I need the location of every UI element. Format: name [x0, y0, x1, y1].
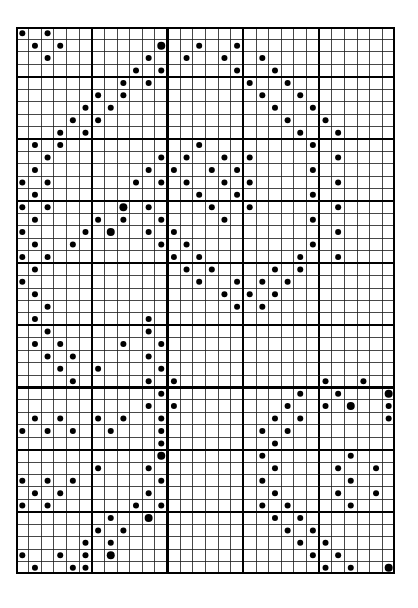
data-dot [184, 242, 190, 248]
data-dot [335, 391, 341, 397]
data-dot [57, 142, 63, 148]
data-dot [108, 428, 114, 434]
data-dot [272, 416, 278, 422]
data-dot [108, 540, 114, 546]
data-dot [184, 266, 190, 272]
data-dot [285, 527, 291, 533]
data-dot [196, 192, 202, 198]
data-dot [82, 565, 88, 571]
data-dot [234, 304, 240, 310]
data-dot [285, 503, 291, 509]
data-dot [32, 565, 38, 571]
data-dot [32, 416, 38, 422]
data-dot [19, 428, 25, 434]
data-dot [171, 229, 177, 235]
data-dot [19, 204, 25, 210]
data-dot [32, 490, 38, 496]
data-dot [133, 503, 139, 509]
data-dot [234, 192, 240, 198]
data-dot [120, 80, 126, 86]
data-dot [146, 80, 152, 86]
data-dot [323, 378, 329, 384]
data-dot [158, 242, 164, 248]
data-dot [323, 117, 329, 123]
data-dot [234, 167, 240, 173]
data-dot [285, 117, 291, 123]
data-dot [158, 478, 164, 484]
data-dot [310, 192, 316, 198]
data-dot [221, 217, 227, 223]
data-dot [95, 465, 101, 471]
data-dot [196, 142, 202, 148]
data-dot [272, 515, 278, 521]
data-dot [32, 242, 38, 248]
data-dot [145, 514, 153, 522]
data-dot [171, 403, 177, 409]
data-dot [45, 155, 51, 161]
data-dot [45, 304, 51, 310]
data-dot [19, 254, 25, 260]
data-dot [82, 105, 88, 111]
data-dot [348, 503, 354, 509]
data-dot [158, 217, 164, 223]
data-dot [272, 68, 278, 74]
data-dot [335, 465, 341, 471]
data-dot [209, 167, 215, 173]
data-dot [45, 30, 51, 36]
grid-canvas [16, 27, 395, 574]
data-dot [57, 43, 63, 49]
chart-sheet [0, 0, 418, 608]
data-dot [310, 552, 316, 558]
data-dot [45, 329, 51, 335]
data-dot [19, 229, 25, 235]
data-dot [259, 55, 265, 61]
data-dot [310, 527, 316, 533]
data-dot [297, 515, 303, 521]
data-dot [386, 416, 392, 422]
data-dot [158, 416, 164, 422]
data-dot [45, 353, 51, 359]
data-dot [108, 515, 114, 521]
data-dot [171, 254, 177, 260]
data-dot [146, 378, 152, 384]
data-dot [32, 192, 38, 198]
data-dot [82, 229, 88, 235]
data-dot [297, 130, 303, 136]
data-dot [57, 366, 63, 372]
data-dot [120, 217, 126, 223]
data-dot [234, 43, 240, 49]
data-dot [335, 204, 341, 210]
data-dot [335, 155, 341, 161]
data-dot [146, 403, 152, 409]
data-dot [347, 402, 355, 410]
data-dot [95, 366, 101, 372]
data-dot [323, 403, 329, 409]
data-dot [45, 254, 51, 260]
data-dot [285, 279, 291, 285]
data-dot [297, 416, 303, 422]
data-dot [158, 341, 164, 347]
data-dot [297, 540, 303, 546]
data-dot [146, 329, 152, 335]
data-dot [70, 378, 76, 384]
data-dot [272, 490, 278, 496]
data-dot [360, 378, 366, 384]
data-dot [259, 92, 265, 98]
data-dot [310, 167, 316, 173]
data-dot [133, 179, 139, 185]
data-dot [196, 279, 202, 285]
data-dot [310, 217, 316, 223]
data-dot [348, 453, 354, 459]
data-dot [196, 254, 202, 260]
data-dot [335, 552, 341, 558]
data-dot [32, 291, 38, 297]
data-dot [247, 80, 253, 86]
data-dot [57, 341, 63, 347]
data-dot [158, 428, 164, 434]
data-dot [158, 366, 164, 372]
data-dot [373, 490, 379, 496]
data-dot [221, 179, 227, 185]
data-dot [32, 316, 38, 322]
data-dot [158, 155, 164, 161]
data-dot [259, 279, 265, 285]
